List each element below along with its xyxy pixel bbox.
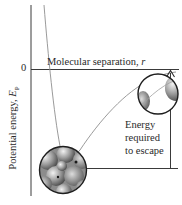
zero-tick-label: 0 (21, 62, 26, 74)
potential-energy-diagram: Potential energy, EP 0 Molecular separat… (0, 0, 182, 205)
annotation-line-1: Energy (125, 118, 164, 131)
y-axis-label-symbol: E (7, 90, 18, 96)
x-axis-label-symbol: r (141, 56, 145, 67)
annotation-line-3: to escape (125, 144, 164, 157)
y-axis-label-subscript: P (13, 86, 21, 90)
x-axis-label: Molecular separation, r (47, 56, 145, 68)
x-axis-label-text: Molecular separation, (47, 56, 141, 67)
escape-energy-annotation: Energy required to escape (125, 118, 164, 157)
annotation-line-2: required (125, 131, 164, 144)
packed-molecules-inset (36, 145, 92, 200)
diagram-graphics (0, 0, 182, 205)
separated-molecules-inset (130, 74, 182, 118)
y-axis-label: Potential energy, EP (7, 83, 21, 173)
y-axis-label-text: Potential energy, (7, 97, 18, 170)
